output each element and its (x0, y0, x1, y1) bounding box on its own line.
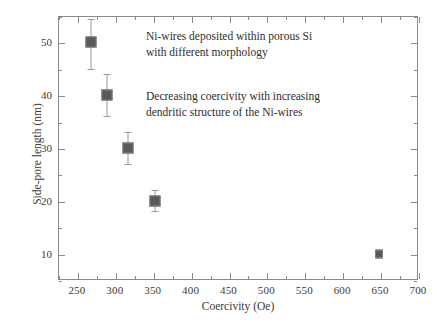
x-axis-title: Coercivity (Oe) (58, 300, 418, 312)
x-axis-minor-tick (286, 276, 287, 279)
x-axis-minor-tick (59, 276, 60, 279)
x-axis-minor-tick (362, 276, 363, 279)
error-bar-cap-upper (152, 190, 159, 191)
x-tick-label: 700 (409, 284, 426, 296)
y-axis-major-tick-right (411, 255, 417, 256)
x-axis-minor-tick (211, 276, 212, 279)
x-axis-minor-tick-top (211, 17, 212, 20)
data-point-marker (123, 143, 134, 154)
x-tick-label: 650 (372, 284, 389, 296)
y-axis-minor-tick (59, 70, 62, 71)
x-axis-major-tick (78, 273, 79, 279)
y-axis-major-tick (59, 255, 65, 256)
data-point-marker (375, 250, 383, 258)
x-axis-minor-tick (135, 276, 136, 279)
x-axis-major-tick-top (343, 17, 344, 23)
x-tick-label: 400 (182, 284, 199, 296)
error-bar-cap-lower (87, 69, 94, 70)
x-axis-minor-tick-top (135, 17, 136, 20)
y-axis-minor-tick-right (414, 228, 417, 229)
x-axis-major-tick (343, 273, 344, 279)
y-axis-major-tick (59, 202, 65, 203)
x-axis-minor-tick-top (286, 17, 287, 20)
x-axis-major-tick-top (192, 17, 193, 23)
x-axis-minor-tick (173, 276, 174, 279)
x-tick-label: 550 (296, 284, 313, 296)
x-axis-minor-tick-top (324, 17, 325, 20)
error-bar-cap-lower (152, 211, 159, 212)
data-point-marker (85, 37, 96, 48)
y-axis-major-tick (59, 43, 65, 44)
y-axis-minor-tick-right (414, 281, 417, 282)
annotation-morphology: Ni-wires deposited within porous Si with… (146, 29, 312, 60)
x-axis-minor-tick (400, 276, 401, 279)
error-bar-cap-lower (103, 116, 110, 117)
y-axis-minor-tick (59, 175, 62, 176)
x-tick-label: 500 (258, 284, 275, 296)
x-tick-label: 300 (106, 284, 123, 296)
x-axis-major-tick (230, 273, 231, 279)
x-axis-minor-tick-top (173, 17, 174, 20)
x-axis-major-tick (267, 273, 268, 279)
y-axis-major-tick-right (411, 149, 417, 150)
y-axis-minor-tick (59, 228, 62, 229)
x-axis-major-tick-top (230, 17, 231, 23)
x-axis-major-tick-top (116, 17, 117, 23)
error-bar-cap-upper (87, 19, 94, 20)
y-axis-minor-tick-right (414, 175, 417, 176)
y-axis-minor-tick-right (414, 70, 417, 71)
x-axis-minor-tick (324, 276, 325, 279)
error-bar-cap-lower (125, 164, 132, 165)
x-tick-label: 250 (68, 284, 85, 296)
x-axis-minor-tick-top (362, 17, 363, 20)
x-axis-major-tick-top (305, 17, 306, 23)
x-tick-label: 350 (144, 284, 161, 296)
y-axis-minor-tick (59, 17, 62, 18)
data-point-marker (150, 195, 161, 206)
x-axis-major-tick (305, 273, 306, 279)
y-axis-minor-tick-right (414, 17, 417, 18)
x-axis-minor-tick-top (97, 17, 98, 20)
y-axis-major-tick (59, 149, 65, 150)
x-tick-label: 600 (334, 284, 351, 296)
x-axis-major-tick (154, 273, 155, 279)
y-axis-title: Side-pore length (nm) (31, 54, 43, 254)
y-axis-minor-tick (59, 281, 62, 282)
y-axis-major-tick-right (411, 202, 417, 203)
x-tick-label: 450 (220, 284, 237, 296)
x-axis-major-tick-top (381, 17, 382, 23)
data-point-marker (101, 90, 112, 101)
y-axis-major-tick-right (411, 96, 417, 97)
x-axis-major-tick-top (267, 17, 268, 23)
x-axis-minor-tick (97, 276, 98, 279)
x-axis-major-tick-top (78, 17, 79, 23)
error-bar-cap-upper (125, 132, 132, 133)
x-axis-major-tick (419, 273, 420, 279)
y-axis-minor-tick (59, 123, 62, 124)
y-tick-label: 50 (41, 36, 52, 48)
y-axis-minor-tick-right (414, 123, 417, 124)
x-axis-minor-tick-top (400, 17, 401, 20)
x-axis-minor-tick (248, 276, 249, 279)
error-bar-cap-upper (103, 74, 110, 75)
y-axis-major-tick (59, 96, 65, 97)
x-axis-minor-tick-top (248, 17, 249, 20)
chart-figure: 2503003504004505005506006507001020304050… (0, 0, 437, 325)
x-axis-major-tick-top (419, 17, 420, 23)
y-axis-major-tick-right (411, 43, 417, 44)
x-axis-major-tick-top (154, 17, 155, 23)
x-axis-major-tick (192, 273, 193, 279)
error-bar-cap-lower (375, 258, 382, 259)
x-axis-major-tick (116, 273, 117, 279)
x-axis-major-tick (381, 273, 382, 279)
annotation-coercivity: Decreasing coercivity with increasing de… (146, 89, 320, 120)
